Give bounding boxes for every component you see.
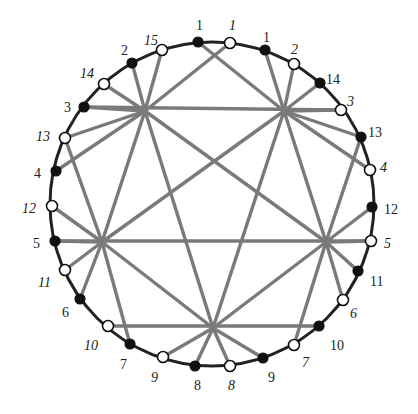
point-label: 8 [194,378,201,393]
point-label: 13 [368,125,382,140]
point-label: 7 [302,355,310,370]
point-label: 4 [380,160,387,175]
chord-diagram: 1112143134125116107988971061151241331421… [0,0,418,414]
point-label: 7 [120,357,127,372]
point-label: 9 [268,370,275,385]
filled-point [79,102,89,112]
chord-line [102,111,145,242]
chord-line [55,241,102,242]
point-label: 1 [229,18,236,33]
point-label: 9 [151,370,158,385]
open-point [336,105,347,116]
chord-line [145,111,326,242]
open-point [289,59,300,70]
filled-point [193,37,203,47]
filled-point [50,236,60,246]
chord-line [213,111,284,328]
point-label: 5 [384,236,391,251]
point-label: 5 [33,236,40,251]
open-point [338,295,349,306]
chord-line [145,111,213,328]
chord-line [284,110,341,111]
point-label: 11 [38,275,51,290]
point-label: 12 [384,202,398,217]
open-point [158,352,169,363]
chord-line [102,111,284,242]
filled-point [125,339,135,349]
filled-point [258,353,268,363]
point-label: 15 [144,33,158,48]
circle-outline [50,42,374,366]
filled-point [190,361,200,371]
chord-line [145,50,162,111]
point-label: 4 [34,166,41,181]
point-label: 10 [84,338,98,353]
chord-line [284,111,326,242]
point-label: 1 [263,30,270,45]
open-point [157,45,168,56]
point-label: 2 [291,42,298,57]
point-label: 2 [121,43,128,58]
point-label: 14 [80,66,94,81]
point-label: 8 [228,378,235,393]
open-point [225,38,236,49]
chord-lines [52,42,372,366]
open-point [289,340,300,351]
filled-point [353,266,363,276]
point-label: 6 [62,305,69,320]
open-point [60,133,71,144]
filled-point [260,45,270,55]
filled-point [356,132,366,142]
open-point [225,361,236,372]
chord-line [102,242,213,328]
point-label: 6 [350,306,357,321]
point-label: 3 [64,100,71,115]
point-label: 11 [370,274,383,289]
point-label: 13 [36,129,50,144]
open-point [365,165,376,176]
open-point [103,321,114,332]
filled-point [51,166,61,176]
point-label: 14 [326,72,340,87]
chord-line [213,242,326,328]
open-point [366,236,377,247]
filled-point [127,58,137,68]
open-point [99,79,110,90]
filled-point [315,78,325,88]
point-label: 10 [330,338,344,353]
filled-point [367,202,377,212]
open-point [47,201,58,212]
filled-point [75,294,85,304]
chord-line [284,111,361,137]
point-label: 3 [346,94,354,109]
point-label: 12 [22,201,36,216]
open-point [60,265,71,276]
point-label: 1 [196,18,203,33]
filled-point [314,321,324,331]
chord-line [326,241,371,242]
